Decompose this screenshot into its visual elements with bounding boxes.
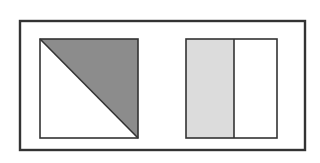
- diagonal-square: [40, 39, 138, 138]
- left-panel-shaded: [186, 39, 234, 138]
- split-rectangle: [186, 39, 277, 138]
- right-panel-unshaded: [234, 39, 277, 138]
- figure-canvas: [0, 0, 320, 163]
- geometry-figure: [0, 0, 320, 163]
